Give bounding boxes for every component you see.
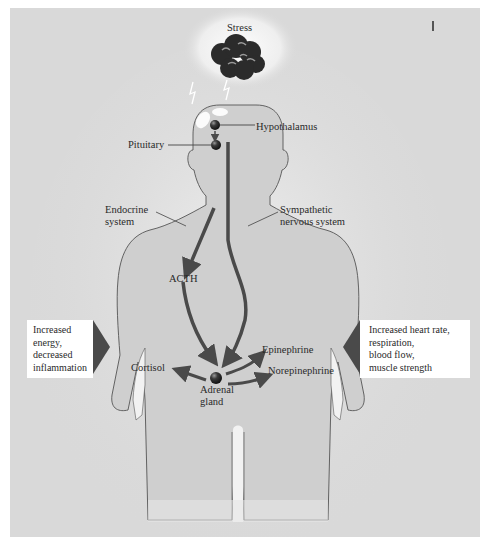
- hypothalamus-label: Hypothalamus: [256, 121, 317, 133]
- body-illustration: [10, 8, 480, 537]
- left-effect-box: Increased energy, decreased inflammation: [27, 320, 93, 378]
- hypothalamus-node: [210, 120, 220, 130]
- cortisol-label: Cortisol: [131, 362, 165, 374]
- norepinephrine-label: Norepinephrine: [268, 365, 334, 377]
- margin-mark: [432, 21, 434, 31]
- sympathetic-nervous-system-label: Sympathetic nervous system: [280, 204, 345, 228]
- right-effect-box: Increased heart rate, respiration, blood…: [360, 320, 470, 378]
- epinephrine-label: Epinephrine: [262, 344, 313, 356]
- pituitary-label: Pituitary: [128, 139, 164, 151]
- pituitary-node: [211, 140, 221, 150]
- stress-label: Stress: [227, 22, 252, 34]
- acth-label: ACTH: [169, 273, 198, 285]
- adrenal-gland-node: [210, 372, 222, 384]
- endocrine-system-label: Endocrine system: [105, 204, 148, 228]
- adrenal-gland-label: Adrenal gland: [200, 384, 234, 408]
- diagram-panel: Stress Hypothalamus Pituitary Endocrine …: [10, 8, 480, 537]
